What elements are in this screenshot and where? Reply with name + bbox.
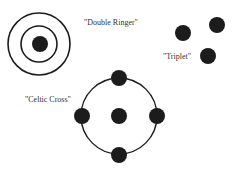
cross-dot-top xyxy=(111,70,127,86)
triplet-dot xyxy=(209,17,225,33)
cross-dot-bottom xyxy=(111,147,127,163)
celtic-cross-figure xyxy=(74,70,165,163)
cross-dot-center xyxy=(111,108,127,124)
celtic-cross-label: "Celtic Cross" xyxy=(25,95,71,104)
triplet-dot xyxy=(200,48,216,64)
triplet-label: "Triplet" xyxy=(163,52,191,61)
double-ringer-label: "Double Ringer" xyxy=(84,18,138,27)
cross-dot-right xyxy=(149,108,165,124)
center-dot xyxy=(32,36,48,52)
cross-dot-left xyxy=(74,108,90,124)
double-ringer-figure xyxy=(8,13,70,75)
triplet-dot xyxy=(175,25,191,41)
